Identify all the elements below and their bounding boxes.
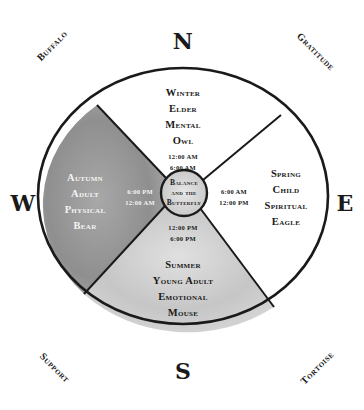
east-season: Spring [246, 166, 326, 182]
center-line-3: Butterfly [160, 198, 208, 208]
west-aspect: Physical [52, 202, 118, 218]
south-stage: Young Adult [133, 273, 233, 289]
south-animal: Mouse [133, 305, 233, 321]
west-quadrant-text: Autumn Adult Physical Bear [52, 170, 118, 234]
north-times: 12:00 AM 6:00 AM [153, 151, 213, 173]
west-animal: Bear [52, 218, 118, 234]
east-animal: Eagle [246, 214, 326, 230]
west-time-end: 12:00 AM [118, 197, 162, 208]
center-line-1: Balance [160, 178, 208, 188]
direction-north: N [168, 28, 198, 54]
west-stage: Adult [52, 186, 118, 202]
north-time-end: 6:00 AM [153, 162, 213, 173]
north-stage: Elder [143, 101, 223, 117]
south-aspect: Emotional [133, 289, 233, 305]
direction-west: W [8, 190, 38, 216]
north-season: Winter [143, 85, 223, 101]
center-text: Balance and the Butterfly [160, 178, 208, 208]
south-time-end: 6:00 PM [153, 233, 213, 244]
south-times: 12:00 PM 6:00 PM [153, 222, 213, 244]
center-line-2: and the [160, 188, 208, 198]
north-animal: Owl [143, 133, 223, 149]
east-time-end: 12:00 PM [209, 197, 259, 208]
direction-south: S [168, 358, 198, 384]
west-season: Autumn [52, 170, 118, 186]
west-time-start: 6:00 PM [118, 186, 162, 197]
north-quadrant-text: Winter Elder Mental Owl [143, 85, 223, 149]
west-times: 6:00 PM 12:00 AM [118, 186, 162, 208]
south-season: Summer [133, 257, 233, 273]
north-aspect: Mental [143, 117, 223, 133]
north-time-start: 12:00 AM [153, 151, 213, 162]
south-quadrant-text: Summer Young Adult Emotional Mouse [133, 257, 233, 321]
south-time-start: 12:00 PM [153, 222, 213, 233]
east-times: 6:00 AM 12:00 PM [209, 186, 259, 208]
east-time-start: 6:00 AM [209, 186, 259, 197]
direction-east: E [333, 190, 357, 216]
